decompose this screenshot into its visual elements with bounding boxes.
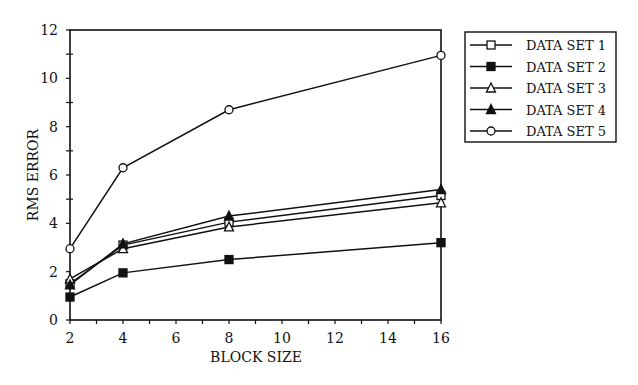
x-tick-label: 14: [379, 330, 397, 346]
axes: 024681012246810121416: [40, 22, 450, 346]
square-filled-marker-icon: [225, 256, 233, 264]
square-filled-marker-icon: [437, 239, 445, 247]
legend-label: DATA SET 1: [526, 38, 606, 53]
x-tick-label: 8: [225, 330, 234, 346]
legend-label: DATA SET 4: [526, 103, 606, 118]
circle-open-marker-icon: [225, 106, 233, 114]
y-tick-label: 0: [49, 312, 58, 328]
series-5: [66, 51, 445, 252]
legend: DATA SET 1DATA SET 2DATA SET 3DATA SET 4…: [465, 32, 616, 142]
circle-open-marker-icon: [437, 51, 445, 59]
y-tick-label: 8: [49, 119, 58, 135]
square-filled-marker-icon: [66, 293, 74, 301]
x-tick-label: 10: [273, 330, 291, 346]
x-tick-label: 12: [326, 330, 344, 346]
circle-open-marker-icon: [119, 164, 127, 172]
y-tick-label: 10: [40, 70, 58, 86]
legend-label: DATA SET 2: [526, 60, 606, 75]
square-filled-marker-icon: [487, 63, 495, 71]
y-tick-label: 12: [40, 22, 58, 38]
y-tick-label: 2: [49, 264, 58, 280]
series-line: [70, 55, 441, 248]
legend-label: DATA SET 3: [526, 81, 606, 96]
y-tick-label: 4: [49, 215, 58, 231]
x-tick-label: 16: [432, 330, 450, 346]
series-group: [66, 51, 446, 301]
x-tick-label: 4: [119, 330, 128, 346]
x-tick-label: 6: [172, 330, 181, 346]
circle-open-marker-icon: [487, 127, 495, 135]
x-tick-label: 2: [66, 330, 75, 346]
circle-open-marker-icon: [66, 245, 74, 253]
line-chart: 024681012246810121416 BLOCK SIZE RMS ERR…: [0, 0, 638, 385]
square-open-marker-icon: [487, 41, 495, 49]
square-filled-marker-icon: [119, 269, 127, 277]
x-axis-label: BLOCK SIZE: [210, 349, 302, 365]
triangle-filled-marker-icon: [437, 185, 446, 194]
y-tick-label: 6: [49, 167, 58, 183]
legend-label: DATA SET 5: [526, 124, 606, 139]
y-axis-label: RMS ERROR: [25, 128, 41, 221]
